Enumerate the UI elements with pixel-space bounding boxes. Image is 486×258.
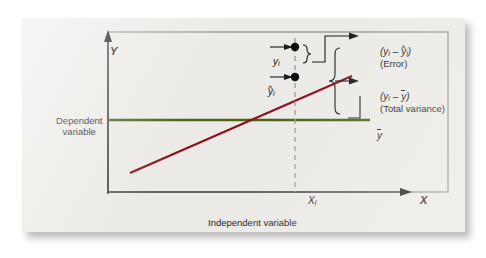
x-tick-subscript: i	[315, 198, 317, 207]
figure-root: Y X Dependent variable Independent varia…	[0, 0, 486, 258]
total-var2: y	[401, 91, 406, 102]
x-axis-description: Independent variable	[208, 218, 297, 229]
mean-line-base: y	[377, 130, 382, 141]
predicted-point-label: ^yi	[268, 86, 275, 99]
observed-point-marker	[291, 43, 299, 51]
x-tick-label-xi: Xi	[308, 195, 316, 208]
y-axis-description: Dependent variable	[56, 116, 102, 138]
x-axis-arrow-icon	[400, 188, 412, 196]
total-minus: –	[390, 91, 401, 102]
error-brace-icon	[303, 45, 311, 63]
y-axis-description-line2: variable	[56, 127, 102, 138]
observed-point-subscript: i	[278, 59, 280, 68]
predicted-point-marker	[291, 73, 299, 81]
annotation-error-caption: (Error)	[380, 59, 411, 70]
error-minus: –	[390, 46, 401, 57]
total-paren-close: )	[406, 91, 409, 102]
observed-point-label: yi	[273, 56, 280, 69]
error-connector-line	[312, 36, 349, 62]
bar-accent-icon	[377, 129, 381, 130]
y-axis-symbol: Y	[110, 45, 117, 58]
regression-line	[130, 76, 352, 173]
error-arrow-icon	[349, 33, 359, 40]
annotation-error: (yi – ^yi) (Error)	[380, 46, 411, 70]
hat-accent-icon: ^	[268, 84, 272, 94]
mean-line-leader	[348, 96, 360, 118]
x-axis-symbol: X	[420, 194, 427, 207]
annotation-total-variance-caption: (Total variance)	[380, 104, 445, 115]
total-bar-accent-icon	[401, 90, 405, 91]
mean-line-label: y	[377, 130, 382, 142]
predicted-point-subscript: i	[273, 89, 275, 98]
x-tick-base: X	[308, 195, 315, 206]
annotation-total-variance: (yi – y) (Total variance)	[380, 91, 445, 115]
total-variance-arrow-icon	[349, 78, 359, 85]
error-hat-accent-icon: ^	[401, 44, 405, 54]
error-paren-close: )	[408, 46, 411, 57]
figure-panel: Y X Dependent variable Independent varia…	[22, 18, 465, 232]
